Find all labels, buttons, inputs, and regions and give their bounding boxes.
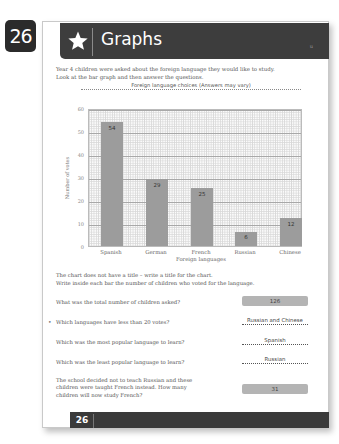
bar-value: 29 — [146, 182, 168, 188]
question-3: Which was the most popular language to l… — [56, 339, 184, 345]
x-tick: French — [181, 249, 221, 255]
y-tick: 40 — [70, 152, 84, 158]
footer-page-number: 26 — [72, 412, 92, 428]
bar-spanish: 54 — [101, 122, 123, 246]
question-5: The school decided not to teach Russian … — [56, 377, 206, 399]
x-tick: Chinese — [270, 249, 310, 255]
bar-value: 12 — [280, 221, 302, 227]
answer-1[interactable]: 126 — [242, 296, 308, 306]
star-icon — [67, 30, 89, 52]
bar-value: 25 — [191, 191, 213, 197]
footer-divider — [93, 414, 94, 428]
page-title: Graphs — [101, 29, 162, 49]
x-tick: Spanish — [91, 249, 131, 255]
y-tick: 0 — [70, 244, 84, 250]
instruction-line-2: Write inside each bar the number of chil… — [56, 279, 254, 287]
page-number-tab: 26 — [5, 20, 36, 52]
question-1: What was the total number of children as… — [56, 299, 180, 305]
instruction-line-1: The chart does not have a title – write … — [56, 271, 254, 279]
chart-title: Foreign language choices (Answers may va… — [81, 82, 301, 90]
answer-5[interactable]: 31 — [242, 384, 308, 394]
y-tick: 50 — [70, 129, 84, 135]
instructions: The chart does not have a title – write … — [56, 271, 254, 287]
y-tick: 20 — [70, 198, 84, 204]
bar-value: 54 — [101, 125, 123, 131]
intro-text: Year 4 children were asked about the for… — [56, 66, 321, 81]
footer-bar: 26 — [70, 412, 329, 428]
bar-value: 6 — [235, 234, 257, 240]
x-axis-label: Foreign languages — [161, 256, 241, 262]
y-tick: 30 — [70, 175, 84, 181]
answer-4[interactable]: Russian — [242, 354, 308, 364]
question-2: Which languages have less than 20 votes? — [56, 319, 169, 325]
bar-russian: 6 — [235, 232, 257, 246]
bar-chart-plot: 54 29 25 6 12 — [88, 109, 302, 247]
answer-2[interactable]: Russian and Chinese — [242, 315, 308, 325]
bar-german: 29 — [146, 179, 168, 246]
header-divider — [92, 28, 93, 56]
bar-chinese: 12 — [280, 218, 302, 246]
question-4: Which was the least popular language to … — [56, 359, 184, 365]
intro-line-2: Look at the bar graph and then answer th… — [56, 74, 321, 82]
x-tick: German — [136, 249, 176, 255]
header-mark: u — [310, 43, 313, 49]
y-tick: 60 — [70, 106, 84, 112]
y-tick: 10 — [70, 221, 84, 227]
workbook-page: Graphs u Year 4 children were asked abou… — [42, 21, 329, 428]
bar-french: 25 — [191, 188, 213, 246]
header-bar: Graphs u — [60, 23, 329, 59]
answer-3[interactable]: Spanish — [242, 335, 308, 345]
x-tick: Russian — [225, 249, 265, 255]
bullet-mark: • — [48, 318, 52, 325]
intro-line-1: Year 4 children were asked about the for… — [56, 66, 321, 74]
